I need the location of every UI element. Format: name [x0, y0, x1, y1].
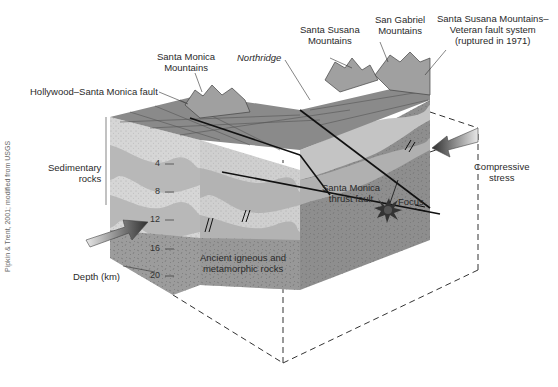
label-depth-axis: Depth (km): [73, 271, 120, 282]
label-veteran-fault-system: Santa Susana Mountains– Veteran fault sy…: [437, 13, 548, 46]
label-sedimentary-rocks: Sedimentary rocks: [48, 162, 101, 184]
label-santa-monica-thrust-fault: Santa Monica thrust fault: [322, 182, 380, 204]
depth-tick-8: 8: [155, 186, 160, 196]
depth-tick-12: 12: [150, 214, 160, 224]
label-compressive-stress: Compressive stress: [474, 161, 529, 183]
label-focus: Focus: [398, 196, 424, 207]
compressive-stress-arrow-right: [432, 128, 478, 157]
image-credit: Pipkin & Trent, 2001; modified from USGS: [4, 141, 11, 272]
label-santa-monica-mountains: Santa Monica Mountains: [157, 51, 215, 73]
label-ancient-rocks: Ancient igneous and metamorphic rocks: [200, 252, 286, 274]
label-northridge: Northridge: [237, 52, 281, 63]
front-face: [110, 117, 200, 295]
label-san-gabriel-mountains: San Gabriel Mountains: [375, 14, 425, 36]
label-hollywood-santa-monica-fault: Hollywood–Santa Monica fault: [30, 86, 158, 97]
depth-tick-16: 16: [150, 243, 160, 253]
label-santa-susana-mountains: Santa Susana Mountains: [300, 24, 360, 46]
depth-tick-4: 4: [155, 158, 160, 168]
depth-tick-20: 20: [150, 270, 160, 280]
